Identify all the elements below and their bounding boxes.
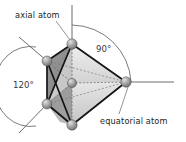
axis-line-equatorial-upper-left [19,37,47,61]
label-angle-120: 120° [13,80,34,90]
atom-equatorial-left-front [42,99,52,109]
atom-equatorial-right [121,77,131,87]
label-angle-90: 90° [96,44,111,54]
molecular-geometry-diagram: axial atom equatorial atom 90° 120° [0,0,186,142]
label-axial-atom: axial atom [15,10,60,20]
leader-line-equatorial-atom [119,87,128,114]
atom-central [67,78,76,87]
axis-line-equatorial-lower-left [19,104,47,133]
label-equatorial-atom: equatorial atom [100,116,168,126]
atom-equatorial-left-back [42,56,52,66]
atom-axial-top [67,39,77,49]
leader-line-axial-atom [56,21,70,40]
trigonal-bipyramid-figure: axial atom equatorial atom 90° 120° [0,0,186,142]
atom-axial-bottom [67,120,77,130]
